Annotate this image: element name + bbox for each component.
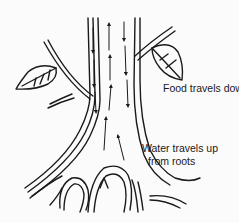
right-leaf [152,45,183,80]
water-travels-up-label: Water travels up [142,142,218,154]
tree-transport-diagram: Food travels down Water travels up from … [0,0,239,223]
left-leaf [16,66,56,89]
food-travels-down-label: Food travels down [163,82,239,94]
water-up-arrows [104,24,124,160]
right-branch [135,27,175,60]
left-branch [44,40,93,108]
roots [30,166,186,212]
tree-illustration [0,0,239,223]
from-roots-label: from roots [148,155,195,167]
